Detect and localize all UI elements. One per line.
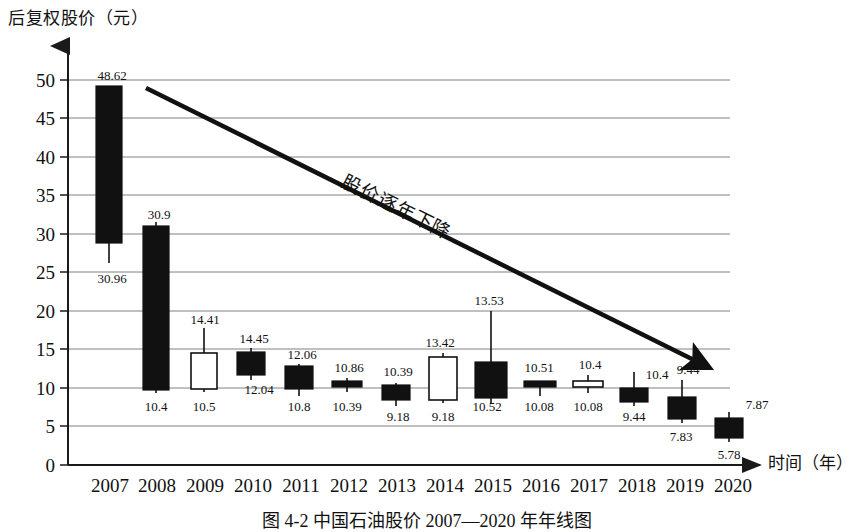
high-label-2016: 10.51 — [524, 360, 553, 375]
low-label-2015: 10.52 — [472, 399, 501, 414]
candle-2020 — [715, 412, 743, 442]
x-tick-label-2018: 2018 — [618, 475, 656, 496]
x-tick-label-2020: 2020 — [714, 475, 752, 496]
candle-2014 — [429, 353, 457, 403]
figure-caption: 图 4-2 中国石油股价 2007—2020 年年线图 — [0, 506, 854, 532]
high-label-2019: 9.44 — [677, 362, 700, 377]
x-tick-label-2010: 2010 — [234, 475, 272, 496]
candle-2008 — [143, 222, 169, 393]
high-label-2014: 13.42 — [425, 335, 454, 350]
x-tick-label-2008: 2008 — [138, 475, 176, 496]
low-label-2014: 9.18 — [432, 409, 455, 424]
high-label-2013: 10.39 — [383, 364, 412, 379]
x-tick-label-2009: 2009 — [186, 475, 224, 496]
candle-2011 — [285, 364, 313, 396]
high-label-2010: 14.45 — [239, 331, 268, 346]
x-tick-label-2016: 2016 — [522, 475, 560, 496]
low-label-2019: 7.83 — [670, 429, 693, 444]
x-tick-label-2017: 2017 — [570, 475, 608, 496]
low-label-2018: 9.44 — [623, 409, 646, 424]
x-tick-label-2019: 2019 — [666, 475, 704, 496]
trend-annotation-text: 股价逐年下降 — [338, 171, 455, 243]
y-tick-label: 15 — [36, 339, 55, 360]
y-axis — [60, 46, 68, 465]
candle-2012 — [332, 378, 362, 392]
candle-2013 — [382, 383, 410, 406]
y-tick-label: 20 — [36, 301, 55, 322]
low-label-2009: 10.5 — [193, 399, 216, 414]
high-label-2015: 13.53 — [474, 293, 503, 308]
x-tick-label-2014: 2014 — [426, 475, 465, 496]
x-tick-label-2015: 2015 — [474, 475, 512, 496]
x-tick-labels: 2007 2008 2009 2010 2011 2012 2013 2014 … — [91, 475, 752, 496]
low-label-2007: 30.96 — [97, 271, 127, 286]
y-tick-label: 40 — [36, 147, 55, 168]
high-label-2009: 14.41 — [190, 312, 219, 327]
high-label-2008: 30.9 — [148, 207, 171, 222]
y-tick-label: 45 — [36, 108, 55, 129]
candle-2015 — [475, 311, 507, 404]
low-label-2020: 5.78 — [718, 447, 741, 462]
y-tick-label: 5 — [46, 416, 56, 437]
low-label-2016: 10.08 — [524, 399, 553, 414]
candlesticks — [96, 86, 743, 442]
x-tick-label-2013: 2013 — [378, 475, 416, 496]
low-label-2011: 10.8 — [288, 399, 311, 414]
y-tick-labels: 0 5 10 15 20 25 30 35 40 45 50 — [36, 70, 55, 476]
high-label-2007: 48.62 — [97, 68, 126, 83]
low-label-2013: 9.18 — [387, 409, 410, 424]
x-tick-label-2011: 2011 — [282, 475, 319, 496]
x-tick-label-2007: 2007 — [91, 475, 129, 496]
candle-2009 — [191, 328, 217, 392]
candle-2018 — [620, 372, 648, 406]
x-tick-label-2012: 2012 — [330, 475, 368, 496]
y-tick-label: 25 — [36, 262, 55, 283]
high-label-2017: 10.4 — [579, 357, 602, 372]
high-label-2011: 12.06 — [287, 347, 317, 362]
low-label-2008: 10.4 — [145, 399, 168, 414]
candle-2010 — [237, 348, 265, 380]
candle-2019 — [668, 380, 696, 423]
y-tick-label: 35 — [36, 185, 55, 206]
y-tick-label: 30 — [36, 224, 55, 245]
y-tick-label: 10 — [36, 378, 55, 399]
high-label-2020: 7.87 — [746, 397, 769, 412]
y-tick-label: 0 — [46, 455, 56, 476]
y-tick-label: 50 — [36, 70, 55, 91]
candle-2017 — [573, 375, 603, 393]
candle-2007 — [96, 86, 122, 263]
low-label-2012: 10.39 — [332, 399, 361, 414]
low-label-2017: 10.08 — [573, 399, 602, 414]
high-label-2012: 10.86 — [334, 360, 364, 375]
high-label-2018: 10.4 — [646, 367, 669, 382]
trend-arrow: 股价逐年下降 — [146, 88, 706, 366]
low-label-2010: 12.04 — [244, 382, 274, 397]
